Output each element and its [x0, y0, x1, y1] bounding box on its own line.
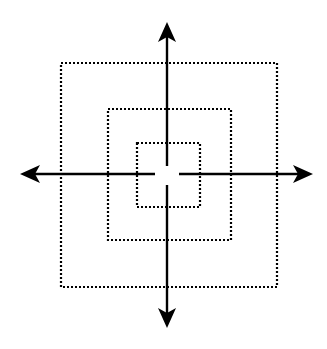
- diagram-canvas: [0, 0, 327, 349]
